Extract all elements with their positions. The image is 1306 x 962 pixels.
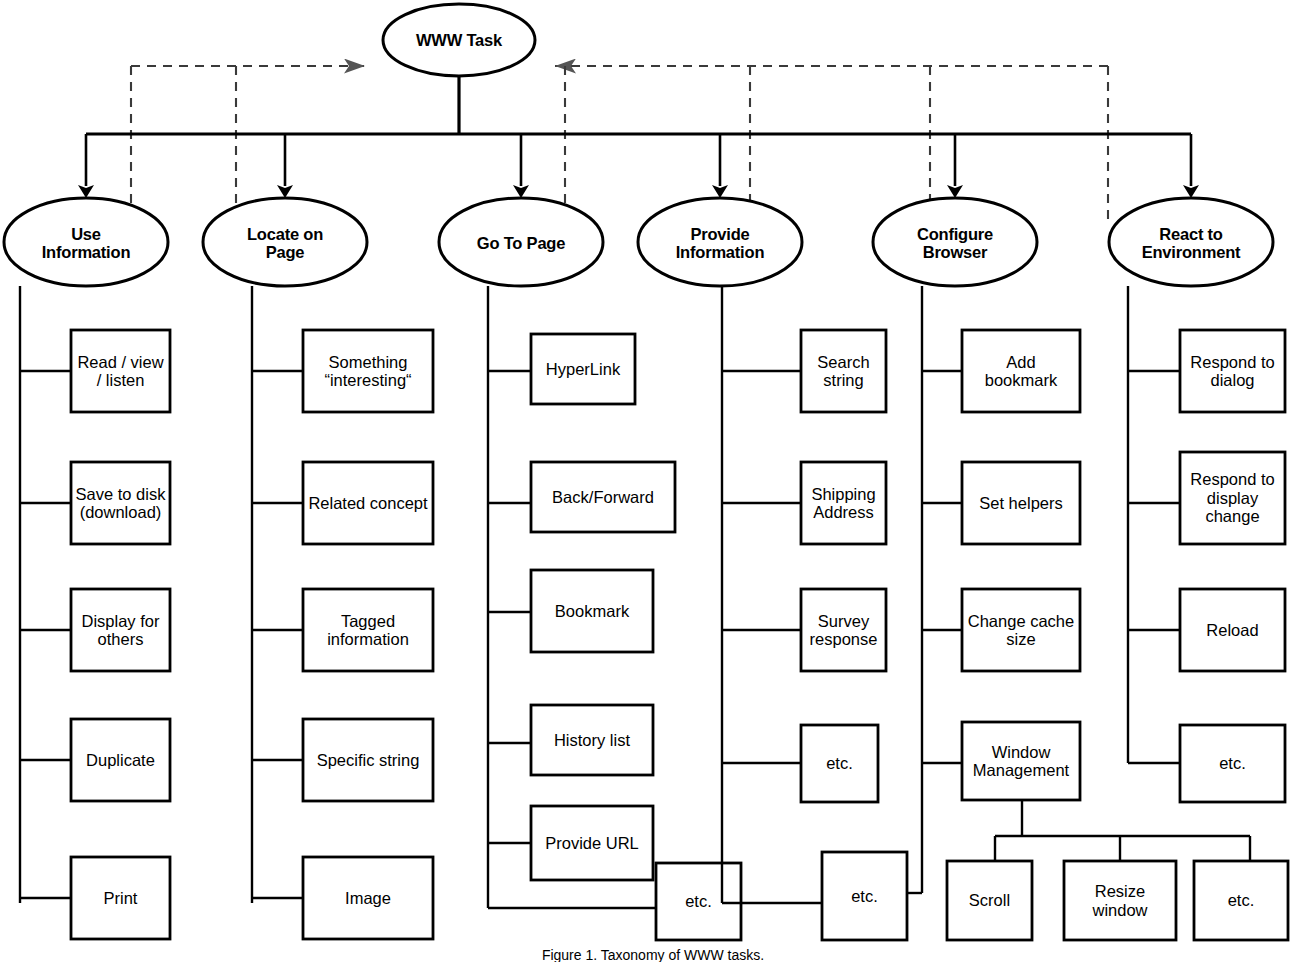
branch-drops xyxy=(86,134,1191,186)
root-ellipse xyxy=(383,4,535,76)
boxes-locate-on-page xyxy=(303,330,433,939)
boxes-use-information xyxy=(71,330,170,939)
ellipse-go-to-page xyxy=(439,198,603,286)
figure-caption: Figure 1. Taxonomy of WWW tasks. xyxy=(0,947,1306,962)
ellipse-provide-information xyxy=(638,198,802,286)
connectors-react-to-environment xyxy=(1128,286,1180,763)
connectors-locate-on-page xyxy=(252,286,303,903)
figure-canvas: WWW Task Use Information Locate on Page … xyxy=(0,0,1306,962)
diagram-svg xyxy=(0,0,1306,962)
connectors-use-information xyxy=(20,286,71,903)
boxes-react-to-environment xyxy=(1180,330,1285,802)
branch-ellipses xyxy=(4,4,1273,286)
boxes-go-to-page xyxy=(531,334,741,940)
ellipse-react-to-environment xyxy=(1109,198,1273,286)
ellipse-locate-on-page xyxy=(203,198,367,286)
ellipse-configure-browser xyxy=(873,198,1037,286)
boxes-provide-information xyxy=(801,330,907,940)
trunk xyxy=(86,75,1191,134)
ellipse-use-information xyxy=(4,198,168,286)
